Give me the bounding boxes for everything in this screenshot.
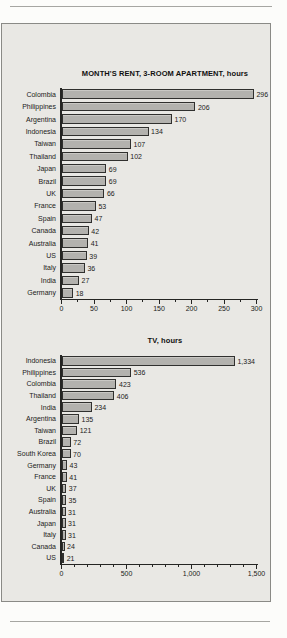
chart-row: Germany18 (2, 287, 270, 299)
value-label: 31 (68, 520, 76, 527)
category-label: US (2, 249, 56, 261)
bar (62, 238, 89, 248)
category-label: Indonesia (2, 125, 56, 137)
chart-row: South Korea70 (2, 448, 270, 460)
chart-row: US39 (2, 249, 270, 261)
chart-row: Brazil72 (2, 436, 270, 448)
value-label: 36 (87, 264, 95, 271)
category-label: UK (2, 187, 56, 199)
value-label: 66 (107, 190, 115, 197)
value-label: 47 (95, 215, 103, 222)
chart-row: Germany43 (2, 459, 270, 471)
x-axis-minor-tick (230, 565, 231, 567)
x-axis-major-tick (159, 300, 160, 304)
bar (62, 176, 107, 186)
chart-panel: MONTH'S RENT, 3-ROOM APARTMENT, hours Co… (1, 23, 271, 602)
bar (62, 189, 105, 199)
tv-chart-title: TV, hours (60, 335, 270, 347)
bar (62, 414, 80, 424)
value-label: 27 (82, 277, 90, 284)
category-label: Canada (2, 541, 56, 553)
value-label: 134 (151, 128, 163, 135)
category-label: Brazil (2, 436, 56, 448)
bar (62, 201, 96, 211)
x-axis-minor-tick (87, 565, 88, 567)
chart-row: Indonesia134 (2, 125, 270, 137)
category-label: Spain (2, 494, 56, 506)
chart-row: Thailand102 (2, 150, 270, 162)
value-label: 423 (119, 380, 131, 387)
bar (62, 518, 66, 528)
bar (62, 507, 66, 517)
x-axis-minor-tick (217, 565, 218, 567)
x-axis-major-tick (61, 565, 62, 569)
chart-row: Taiwan121 (2, 425, 270, 437)
value-label: 31 (68, 531, 76, 538)
value-label: 42 (91, 227, 99, 234)
bar (62, 449, 71, 459)
value-label: 72 (73, 438, 81, 445)
bar (62, 276, 80, 286)
value-label: 1,334 (237, 357, 255, 364)
x-axis-minor-tick (204, 565, 205, 567)
bar (62, 164, 107, 174)
value-label: 70 (73, 450, 81, 457)
category-label: Italy (2, 262, 56, 274)
category-label: France (2, 200, 56, 212)
bar (62, 542, 65, 552)
category-label: Brazil (2, 175, 56, 187)
x-axis-minor-tick (178, 565, 179, 567)
value-label: 135 (82, 415, 94, 422)
value-label: 406 (117, 392, 129, 399)
value-label: 41 (91, 240, 99, 247)
category-label: Taiwan (2, 425, 56, 437)
x-axis-major-tick (126, 300, 127, 304)
chart-row: Japan69 (2, 162, 270, 174)
value-label: 121 (80, 427, 92, 434)
category-label: Thailand (2, 390, 56, 402)
value-label: 170 (175, 116, 187, 123)
chart-row: Thailand406 (2, 390, 270, 402)
y-axis-line (60, 88, 62, 300)
category-label: Indonesia (2, 355, 56, 367)
chart-row: Spain47 (2, 212, 270, 224)
x-axis-minor-tick (243, 565, 244, 567)
top-rule (10, 6, 272, 7)
chart-row: Brazil69 (2, 175, 270, 187)
category-label: Colombia (2, 88, 56, 100)
x-axis-major-tick (126, 565, 127, 569)
x-axis-minor-tick (74, 565, 75, 567)
x-axis-minor-tick (139, 565, 140, 567)
chart-row: Philippines206 (2, 100, 270, 112)
chart-row: Australia31 (2, 506, 270, 518)
x-axis-minor-tick (165, 565, 166, 567)
chart-row: Spain35 (2, 494, 270, 506)
category-label: Colombia (2, 378, 56, 390)
chart-row: UK37 (2, 483, 270, 495)
x-axis-major-tick (61, 300, 62, 304)
value-label: 53 (98, 202, 106, 209)
bar (62, 214, 93, 224)
x-axis-minor-tick (142, 300, 143, 302)
x-axis-major-tick (224, 300, 225, 304)
value-label: 107 (134, 140, 146, 147)
category-label: Italy (2, 529, 56, 541)
x-axis-tick-label: 500 (121, 570, 133, 577)
category-label: Philippines (2, 367, 56, 379)
chart-row: Taiwan107 (2, 138, 270, 150)
value-label: 41 (69, 473, 77, 480)
category-label: Germany (2, 287, 56, 299)
bar (62, 402, 92, 412)
category-label: Japan (2, 517, 56, 529)
bar (62, 356, 235, 366)
category-label: Spain (2, 212, 56, 224)
value-label: 18 (76, 289, 84, 296)
value-label: 102 (130, 153, 142, 160)
chart-row: Colombia296 (2, 88, 270, 100)
bar (62, 263, 85, 273)
bar (62, 89, 254, 99)
bar (62, 553, 65, 563)
x-axis-minor-tick (110, 300, 111, 302)
x-axis-minor-tick (100, 565, 101, 567)
category-label: Australia (2, 506, 56, 518)
